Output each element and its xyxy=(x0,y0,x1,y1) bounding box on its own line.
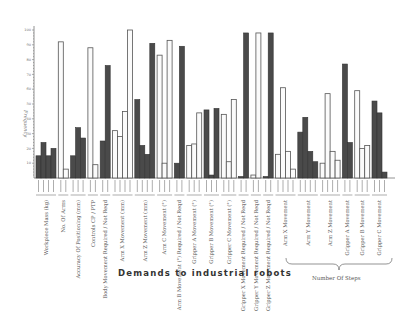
bar xyxy=(197,113,202,178)
category-label: Arm X Movement (mm) xyxy=(119,200,125,263)
bar xyxy=(58,42,63,178)
bar xyxy=(100,141,105,178)
category-label: No. Of Arms xyxy=(60,200,66,233)
bar xyxy=(157,55,162,178)
bar xyxy=(221,114,226,178)
bar xyxy=(135,100,140,178)
y-tick-label: 70 xyxy=(27,73,31,77)
chart-title: Demands to industrial robots xyxy=(118,268,292,278)
bar xyxy=(308,151,313,178)
y-tick-label: 60 xyxy=(27,87,31,91)
bar xyxy=(187,145,192,178)
bar-chart: 102030405060708090100 Workpiece Mass (kg… xyxy=(0,0,415,320)
category-label: Gripper A Movement xyxy=(344,199,351,255)
bar xyxy=(204,110,209,178)
bar xyxy=(162,163,167,178)
bar xyxy=(140,145,145,178)
bar xyxy=(123,111,128,178)
category-label: Gripper Z Movement Required / Not Reqd xyxy=(265,199,272,311)
bar xyxy=(382,172,387,178)
bar xyxy=(291,169,296,178)
category-label: Gripper X Movement Required / Not Reqd xyxy=(240,199,247,311)
bar xyxy=(179,46,184,178)
category-label: Body Movement Required / Not Reqd xyxy=(102,199,109,298)
bar xyxy=(71,156,76,178)
category-label: Accuracy Of Positioning (mm) xyxy=(75,200,82,280)
category-label: Arm X Movement xyxy=(282,199,288,247)
category-label: Gripper B Movement (°) xyxy=(208,200,215,264)
bar xyxy=(320,163,325,178)
bar xyxy=(36,156,41,178)
bar xyxy=(214,108,219,178)
x-axis-labels: Workpiece Mass (kg)No. Of ArmsAccuracy O… xyxy=(36,180,387,311)
y-tick-label: 20 xyxy=(27,147,31,151)
bar xyxy=(298,132,303,178)
bar xyxy=(303,117,308,178)
bar xyxy=(209,175,214,178)
y-tick-label: 90 xyxy=(27,43,31,47)
bar xyxy=(244,33,249,178)
bar xyxy=(41,142,46,178)
category-label: Arm Y Movement xyxy=(305,199,311,247)
bar xyxy=(88,48,93,178)
y-tick-label: 100 xyxy=(24,28,31,32)
bar xyxy=(263,177,268,178)
category-label: Gripper A Movement (°) xyxy=(191,200,198,264)
bar xyxy=(281,88,286,178)
category-label: Arm Z Movement xyxy=(327,199,333,247)
bar xyxy=(192,144,197,178)
steps-brace: Number Of Steps xyxy=(286,258,392,282)
bar xyxy=(174,163,179,178)
bar xyxy=(377,113,382,178)
category-label: Gripper C Movement (°) xyxy=(226,200,233,264)
bar xyxy=(360,148,365,178)
category-label: Gripper C Movement xyxy=(376,199,383,256)
bar xyxy=(145,154,150,178)
bar xyxy=(105,66,110,178)
bar xyxy=(251,175,256,178)
bar xyxy=(63,169,68,178)
bar xyxy=(268,33,273,178)
category-label: Controls CP / PTP xyxy=(90,200,96,248)
bar xyxy=(372,101,377,178)
bar xyxy=(347,142,352,178)
bar xyxy=(113,131,118,178)
bar xyxy=(276,154,281,178)
bar xyxy=(93,165,98,178)
y-tick-label: 80 xyxy=(27,58,31,62)
bar xyxy=(81,138,86,178)
category-label: Arm Z Movement (mm) xyxy=(142,200,148,262)
bar xyxy=(226,162,231,178)
bar xyxy=(330,151,335,178)
bar xyxy=(325,94,330,178)
brace-label: Number Of Steps xyxy=(312,275,361,282)
bar xyxy=(286,151,291,178)
category-label: Arm B Movement (°) Required / Not Reqd xyxy=(176,199,183,311)
category-label: Gripper Y Movement Required / Not Reqd xyxy=(253,199,260,311)
y-axis-label: Frequency xyxy=(22,109,29,137)
bar xyxy=(128,30,133,178)
bar xyxy=(76,128,81,178)
bar xyxy=(51,148,56,178)
bar xyxy=(313,162,318,178)
bar xyxy=(118,137,123,178)
bars xyxy=(36,30,387,178)
bar xyxy=(231,100,236,178)
bar xyxy=(342,64,347,178)
bar xyxy=(355,91,360,178)
y-tick-label: 10 xyxy=(27,161,31,165)
category-label: Gripper B Movement xyxy=(359,199,366,255)
bar xyxy=(167,40,172,178)
bar xyxy=(335,160,340,178)
bar xyxy=(46,156,51,178)
bar xyxy=(256,33,261,178)
y-tick-label: 50 xyxy=(27,102,31,106)
bar xyxy=(239,177,244,178)
category-label: Workpiece Mass (kg) xyxy=(43,200,50,255)
category-label: Arm C Movement (°) xyxy=(161,200,167,256)
bar xyxy=(365,145,370,178)
bar xyxy=(150,43,155,178)
